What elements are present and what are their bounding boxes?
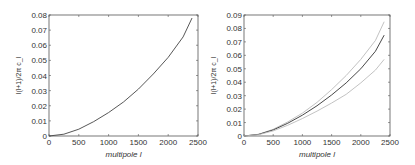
x-tick-label: 500	[72, 138, 86, 147]
chart-canvas: 0500100015002000250000.010.020.030.040.0…	[0, 0, 415, 165]
y-tick-label: 0.02	[31, 102, 47, 111]
y-tick-label: 0.01	[226, 119, 242, 128]
x-tick-label: 1500	[323, 138, 341, 147]
y-tick-label: 0.09	[226, 11, 242, 20]
series-line	[49, 18, 192, 136]
x-tick-label: 2000	[159, 138, 177, 147]
x-tick-label: 1500	[130, 138, 148, 147]
x-tick-label: 500	[267, 138, 281, 147]
y-tick-label: 0.02	[226, 105, 242, 114]
x-tick-label: 0	[47, 138, 52, 147]
x-tick-label: 2000	[352, 138, 370, 147]
plot-frame	[244, 15, 390, 136]
y-tick-label: 0.07	[31, 26, 47, 35]
y-tick-label: 0.06	[31, 41, 47, 50]
series-line	[244, 35, 384, 136]
x-axis-label: multipole l	[299, 150, 335, 159]
plot-frame	[49, 15, 198, 136]
y-axis-label: l(l+1)/2π c_l	[15, 56, 23, 94]
y-tick-label: 0.08	[31, 11, 47, 20]
series-line	[244, 22, 384, 136]
y-axis-label: l(l+1)/2π c_l	[210, 56, 218, 94]
x-tick-label: 2500	[381, 138, 399, 147]
chart-1: 0500100015002000250000.010.020.030.040.0…	[15, 11, 207, 159]
y-tick-label: 0	[238, 132, 243, 141]
y-tick-label: 0.08	[226, 24, 242, 33]
y-tick-label: 0.05	[31, 56, 47, 65]
y-tick-label: 0.04	[226, 78, 242, 87]
y-tick-label: 0.06	[226, 51, 242, 60]
x-tick-label: 1000	[100, 138, 118, 147]
x-tick-label: 0	[242, 138, 247, 147]
x-axis-label: multipole l	[105, 150, 141, 159]
y-tick-label: 0.04	[31, 72, 47, 81]
x-tick-label: 1000	[294, 138, 312, 147]
series-line	[244, 59, 384, 136]
y-tick-label: 0.07	[226, 38, 242, 47]
y-tick-label: 0	[43, 132, 48, 141]
y-tick-label: 0.05	[226, 65, 242, 74]
y-tick-label: 0.03	[31, 87, 47, 96]
y-tick-label: 0.01	[31, 117, 47, 126]
x-tick-label: 2500	[189, 138, 207, 147]
y-tick-label: 0.03	[226, 92, 242, 101]
chart-2: 0500100015002000250000.010.020.030.040.0…	[210, 11, 399, 159]
